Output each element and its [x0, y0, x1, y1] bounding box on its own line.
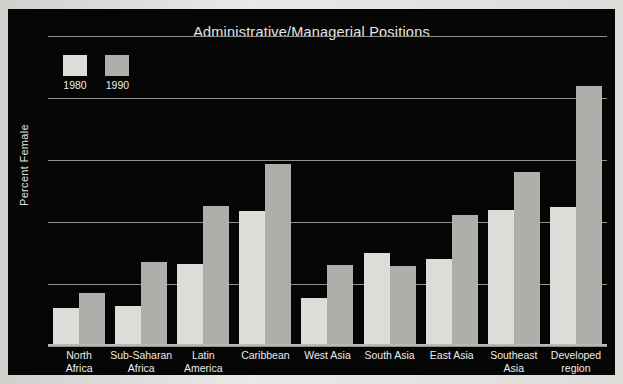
bar-1980	[115, 306, 141, 346]
bar-1990	[390, 266, 416, 346]
legend-label-1980: 1980	[63, 79, 87, 91]
legend-swatch-1990	[105, 55, 129, 76]
x-tick-label: Caribbean	[234, 349, 296, 374]
bar-1980	[488, 210, 514, 346]
y-axis-label: Percent Female	[18, 105, 30, 225]
x-tick-label: Latin America	[172, 349, 234, 374]
x-tick-label: Developed region	[545, 349, 607, 374]
chart-legend: 1980 1990	[63, 55, 143, 91]
bar-1990	[514, 172, 540, 346]
bar-1980	[426, 259, 452, 346]
x-tick-label: South Asia	[359, 349, 421, 374]
bar-1980	[177, 264, 203, 346]
bar-1990	[265, 164, 291, 346]
bar-group	[421, 36, 483, 346]
x-axis-labels: North AfricaSub-Saharan AfricaLatin Amer…	[48, 349, 607, 374]
bar-group	[234, 36, 296, 346]
bar-1990	[203, 206, 229, 346]
bar-group	[172, 36, 234, 346]
x-axis-line	[48, 344, 607, 346]
bar-1980	[550, 207, 576, 346]
chart-figure: Administrative/Managerial Positions Perc…	[0, 0, 623, 384]
bar-group	[296, 36, 358, 346]
bar-1990	[79, 293, 105, 346]
legend-item-1990: 1990	[105, 55, 129, 91]
bar-group	[545, 36, 607, 346]
legend-swatch-1980	[63, 55, 87, 76]
x-tick-label: Sub-Saharan Africa	[110, 349, 172, 374]
bar-1990	[141, 262, 167, 346]
legend-label-1990: 1990	[105, 79, 129, 91]
x-tick-label: West Asia	[296, 349, 358, 374]
chart-panel: Administrative/Managerial Positions Perc…	[8, 9, 615, 375]
legend-item-1980: 1980	[63, 55, 87, 91]
bar-1990	[327, 265, 353, 346]
bar-1980	[364, 253, 390, 346]
bar-group	[483, 36, 545, 346]
x-tick-label: Southeast Asia	[483, 349, 545, 374]
bar-1980	[53, 308, 79, 346]
bar-1980	[239, 211, 265, 346]
bar-1980	[301, 298, 327, 346]
bar-1990	[576, 86, 602, 346]
x-tick-label: East Asia	[421, 349, 483, 374]
gridline-0	[48, 346, 607, 347]
bar-group	[359, 36, 421, 346]
bar-1990	[452, 215, 478, 346]
x-tick-label: North Africa	[48, 349, 110, 374]
